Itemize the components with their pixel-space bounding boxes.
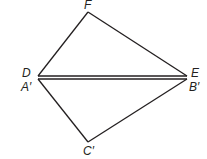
segment-DF (38, 12, 88, 76)
label-D: D (22, 67, 31, 79)
geometry-diagram (0, 0, 207, 159)
segment-FE (88, 12, 187, 76)
label-E: E (191, 67, 199, 79)
label-F: F (84, 0, 91, 11)
label-C-prime: C′ (83, 145, 94, 157)
segment-C-prime-B-prime (88, 79, 187, 142)
label-B-prime: B′ (189, 81, 199, 93)
label-A-prime: A′ (21, 81, 31, 93)
segment-A-prime-C-prime (38, 79, 88, 142)
